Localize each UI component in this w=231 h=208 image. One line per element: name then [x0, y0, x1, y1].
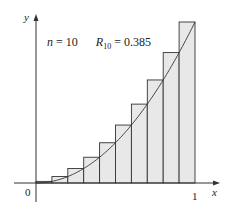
- y-axis-label: y: [24, 11, 29, 23]
- r-subscript: 10: [103, 42, 111, 51]
- annotation: n = 10 R10 = 0.385: [47, 35, 151, 51]
- r-value: = 0.385: [114, 35, 151, 49]
- bar: [84, 157, 100, 183]
- n-label: n: [47, 35, 53, 49]
- bar: [163, 53, 179, 183]
- bar: [100, 143, 116, 183]
- bar: [131, 104, 147, 183]
- x-axis-label: x: [212, 186, 217, 198]
- bar: [179, 22, 195, 183]
- bar: [147, 80, 163, 183]
- x-tick-one: 1: [192, 190, 198, 202]
- riemann-sum-chart: [0, 0, 231, 208]
- origin-label: 0: [25, 186, 31, 198]
- x-axis-arrow-icon: [213, 181, 220, 186]
- y-axis-arrow-icon: [34, 14, 39, 21]
- n-value: = 10: [56, 35, 78, 49]
